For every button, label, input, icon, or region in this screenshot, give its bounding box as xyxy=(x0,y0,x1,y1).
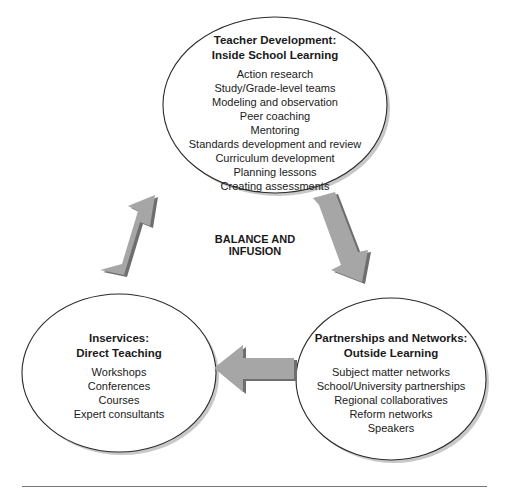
list-item: School/University partnerships xyxy=(296,379,486,393)
node-title: Teacher Development: xyxy=(163,33,387,48)
center-label: BALANCE AND INFUSION xyxy=(190,233,320,257)
list-item: Courses xyxy=(22,393,216,407)
list-item: Mentoring xyxy=(163,123,387,137)
node-teacher-development: Teacher Development: Inside School Learn… xyxy=(163,33,387,193)
node-items: Subject matter networks School/Universit… xyxy=(296,365,486,435)
arrow-up-right-icon xyxy=(100,195,158,277)
node-title: Partnerships and Networks: xyxy=(296,331,486,346)
list-item: Workshops xyxy=(22,365,216,379)
list-item: Curriculum development xyxy=(163,151,387,165)
bottom-divider xyxy=(22,486,487,487)
list-item: Creating assessments xyxy=(163,179,387,193)
list-item: Standards development and review xyxy=(163,137,387,151)
list-item: Subject matter networks xyxy=(296,365,486,379)
list-item: Reform networks xyxy=(296,407,486,421)
list-item: Speakers xyxy=(296,421,486,435)
node-subtitle: Direct Teaching xyxy=(22,346,216,361)
node-items: Action research Study/Grade-level teams … xyxy=(163,67,387,193)
list-item: Conferences xyxy=(22,379,216,393)
arrow-left-icon xyxy=(214,345,297,394)
list-item: Action research xyxy=(163,67,387,81)
node-partnerships: Partnerships and Networks: Outside Learn… xyxy=(296,331,486,435)
list-item: Regional collaboratives xyxy=(296,393,486,407)
list-item: Planning lessons xyxy=(163,165,387,179)
node-items: Workshops Conferences Courses Expert con… xyxy=(22,365,216,421)
arrow-down-right-icon xyxy=(313,192,371,284)
node-subtitle: Outside Learning xyxy=(296,346,486,361)
node-subtitle: Inside School Learning xyxy=(163,48,387,63)
list-item: Peer coaching xyxy=(163,109,387,123)
list-item: Modeling and observation xyxy=(163,95,387,109)
list-item: Expert consultants xyxy=(22,407,216,421)
node-inservices: Inservices: Direct Teaching Workshops Co… xyxy=(22,331,216,421)
node-title: Inservices: xyxy=(22,331,216,346)
list-item: Study/Grade-level teams xyxy=(163,81,387,95)
